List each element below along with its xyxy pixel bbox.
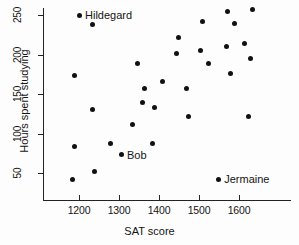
data-point xyxy=(174,51,179,56)
data-point xyxy=(90,107,95,112)
y-tick-250 xyxy=(38,15,44,16)
x-tick-label-1300: 1300 xyxy=(99,205,139,216)
y-tick-200 xyxy=(38,55,44,56)
x-tick-label-1400: 1400 xyxy=(139,205,179,216)
data-point xyxy=(232,21,237,26)
data-point xyxy=(152,105,157,110)
x-axis-title: SAT score xyxy=(0,225,299,237)
x-tick-1300 xyxy=(119,195,120,201)
data-point-hildegard xyxy=(77,13,82,18)
y-tick-100 xyxy=(38,134,44,135)
data-point xyxy=(200,19,205,24)
data-point xyxy=(142,86,147,91)
x-tick-label-1600: 1600 xyxy=(219,205,259,216)
data-point xyxy=(90,22,95,27)
data-point xyxy=(224,44,229,49)
data-point xyxy=(242,41,247,46)
data-point xyxy=(184,86,189,91)
data-point xyxy=(92,169,97,174)
data-point xyxy=(246,114,251,119)
data-point xyxy=(70,177,75,182)
data-point xyxy=(206,61,211,66)
data-point xyxy=(108,141,113,146)
data-point xyxy=(250,7,255,12)
data-point xyxy=(150,141,155,146)
data-point xyxy=(176,35,181,40)
data-point-jermaine xyxy=(216,177,221,182)
data-point xyxy=(228,71,233,76)
scatter-plot: 5010015020025012001300140015001600 Hilde… xyxy=(0,0,299,245)
data-point-bob xyxy=(119,152,124,157)
x-tick-1400 xyxy=(159,195,160,201)
data-point xyxy=(186,114,191,119)
x-tick-label-1200: 1200 xyxy=(59,205,99,216)
x-tick-label-1500: 1500 xyxy=(179,205,219,216)
data-point xyxy=(72,144,77,149)
data-point xyxy=(130,122,135,127)
point-label-jermaine: Jermaine xyxy=(224,174,269,185)
y-tick-50 xyxy=(38,173,44,174)
x-tick-1500 xyxy=(199,195,200,201)
y-tick-150 xyxy=(38,94,44,95)
data-point xyxy=(248,56,253,61)
data-point xyxy=(135,61,140,66)
x-tick-1200 xyxy=(79,195,80,201)
data-point xyxy=(72,73,77,78)
y-axis-line xyxy=(43,8,44,200)
data-point xyxy=(225,9,230,14)
point-label-hildegard: Hildegard xyxy=(85,10,132,21)
point-label-bob: Bob xyxy=(127,150,147,161)
data-point xyxy=(140,100,145,105)
x-tick-1600 xyxy=(239,195,240,201)
y-axis-title: Hours spent studying xyxy=(18,16,30,186)
data-point xyxy=(198,48,203,53)
data-point xyxy=(160,79,165,84)
